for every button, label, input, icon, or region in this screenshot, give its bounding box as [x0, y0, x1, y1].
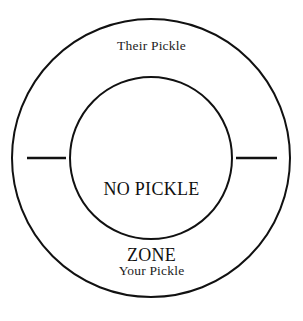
outer-ring-bottom-label: Your Pickle — [0, 263, 303, 278]
no-pickle-zone-diagram: Their Pickle NO PICKLE ZONE Your Pickle — [0, 0, 303, 321]
inner-circle-label: NO PICKLE ZONE — [0, 134, 303, 310]
outer-ring-top-label: Their Pickle — [0, 38, 303, 53]
inner-circle-label-line1: NO PICKLE — [0, 178, 303, 200]
